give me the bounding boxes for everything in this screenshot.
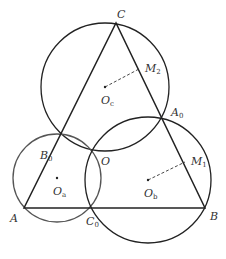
geometry-diagram: ABCA0B0C0OOaObOcM1M2 [0,0,226,259]
label-c: C [117,8,126,21]
center-dot-ob [147,179,149,181]
label-o: O [101,155,110,168]
label-a0: A0 [170,106,183,120]
dashed-segment-ob-m1 [148,162,185,180]
label-ob: Ob [144,187,158,201]
label-b0: B0 [39,149,53,163]
label-oc: Oc [101,94,114,108]
label-b: B [209,210,218,223]
label-m1: M1 [190,155,207,169]
dashed-segment-oc-m2 [105,69,139,87]
label-m2: M2 [144,62,161,76]
center-dot-oa [56,177,58,179]
center-dot-oc [104,86,106,88]
label-oa: Oa [53,185,66,199]
label-a: A [9,212,18,225]
